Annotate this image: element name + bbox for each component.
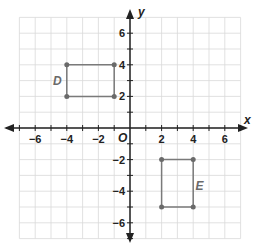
x-axis-label: x (243, 113, 252, 127)
rectangle-e: E (159, 157, 204, 209)
coordinate-plane: −6−4−2246642−2−4−6 x y O DE (0, 0, 254, 248)
y-tick-label: −4 (112, 185, 125, 197)
vertex-point (64, 62, 69, 67)
y-tick-label: −2 (112, 154, 125, 166)
vertex-point (112, 62, 117, 67)
y-tick-label: −6 (112, 217, 125, 229)
x-tick-label: −4 (61, 133, 74, 145)
y-axis-label: y (137, 5, 146, 19)
y-tick-label: 4 (119, 59, 126, 71)
x-tick-label: 2 (159, 133, 165, 145)
vertex-point (159, 205, 164, 210)
vertex-point (112, 94, 117, 99)
y-axis-arrow-down (126, 233, 134, 243)
vertex-point (64, 94, 69, 99)
shapes: DE (53, 62, 205, 209)
x-tick-label: 6 (222, 133, 228, 145)
y-tick-label: 6 (119, 27, 125, 39)
y-tick-label: 2 (119, 90, 125, 102)
shape-label-e: E (196, 179, 205, 193)
vertex-point (191, 157, 196, 162)
x-tick-label: 4 (190, 133, 197, 145)
x-axis-arrow-left (4, 124, 14, 132)
axes (4, 9, 248, 243)
vertex-point (191, 205, 196, 210)
shape-label-d: D (53, 74, 62, 88)
origin-label: O (118, 131, 128, 145)
x-tick-label: −2 (92, 133, 105, 145)
x-tick-label: −6 (29, 133, 42, 145)
vertex-point (159, 157, 164, 162)
